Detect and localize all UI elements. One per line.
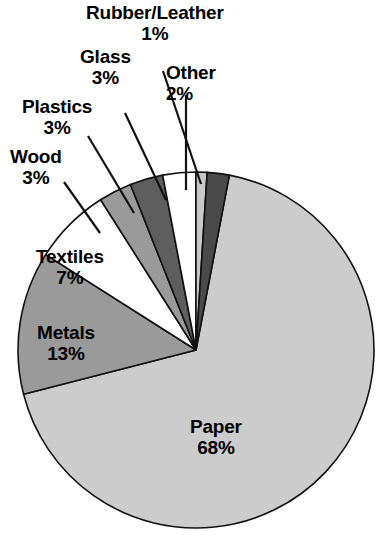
pie-label-glass-percent: 3% xyxy=(80,67,131,88)
pie-label-plastics: Plastics 3% xyxy=(22,96,92,139)
pie-chart-figure: Rubber/Leather 1% Glass 3% Other 2% Plas… xyxy=(0,0,381,553)
pie-label-metals-percent: 13% xyxy=(37,343,95,364)
pie-label-rubber-leather-percent: 1% xyxy=(86,23,224,44)
pie-label-paper: Paper 68% xyxy=(190,416,242,459)
pie-label-glass: Glass 3% xyxy=(80,46,131,89)
pie-label-wood-percent: 3% xyxy=(10,167,62,188)
pie-label-plastics-percent: 3% xyxy=(22,117,92,138)
pie-label-plastics-name: Plastics xyxy=(22,96,92,117)
pie-label-glass-name: Glass xyxy=(80,46,131,67)
pie-label-metals: Metals 13% xyxy=(37,322,95,365)
pie-label-textiles-percent: 7% xyxy=(36,267,104,288)
pie-label-other-percent: 2% xyxy=(166,83,216,104)
pie-label-textiles: Textiles 7% xyxy=(36,246,104,289)
pie-label-other: Other 2% xyxy=(166,62,216,105)
pie-label-other-name: Other xyxy=(166,62,216,83)
pie-label-metals-name: Metals xyxy=(37,322,95,343)
pie-label-wood-name: Wood xyxy=(10,146,62,167)
pie-label-rubber-leather: Rubber/Leather 1% xyxy=(86,2,224,45)
pie-label-textiles-name: Textiles xyxy=(36,246,104,267)
pie-label-rubber-leather-name: Rubber/Leather xyxy=(86,2,224,23)
pie-label-wood: Wood 3% xyxy=(10,146,62,189)
pie-label-paper-percent: 68% xyxy=(190,437,242,458)
pie-label-paper-name: Paper xyxy=(190,416,242,437)
